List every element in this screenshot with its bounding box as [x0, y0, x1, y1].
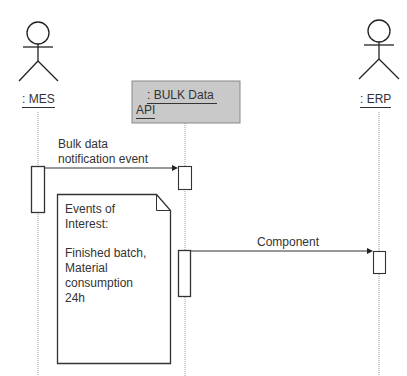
message-1-label-line1: Bulk data — [58, 137, 108, 151]
note-line-4: Material — [65, 261, 108, 275]
mes-label: : MES — [22, 92, 55, 106]
arrowhead-icon — [172, 165, 178, 171]
note-line-2: Interest: — [65, 217, 108, 231]
message-1-label-line2: notification event — [58, 152, 148, 166]
api-label-line2: API — [136, 103, 155, 117]
note-line-3: Finished batch, — [65, 246, 146, 260]
mes-actor-icon — [19, 22, 58, 81]
erp-label-text: : ERP — [360, 92, 391, 108]
api-activation-2 — [179, 251, 191, 297]
note-line-5: consumption — [65, 276, 133, 290]
api-label-text-2: API — [136, 103, 155, 119]
message-2-label: Component — [257, 235, 319, 249]
sequence-diagram — [0, 0, 407, 376]
erp-actor-icon — [359, 20, 399, 79]
erp-label: : ERP — [360, 92, 391, 106]
api-label-line1: : BULK Data — [147, 88, 217, 102]
arrowhead-icon — [367, 248, 373, 254]
api-label-text-1: : BULK Data — [147, 88, 217, 104]
erp-activation — [374, 252, 386, 274]
note-line-6: 24h — [65, 291, 85, 305]
note-line-1: Events of — [65, 202, 115, 216]
api-activation-1 — [179, 167, 192, 190]
mes-activation — [32, 167, 45, 213]
mes-label-text: : MES — [22, 92, 55, 108]
